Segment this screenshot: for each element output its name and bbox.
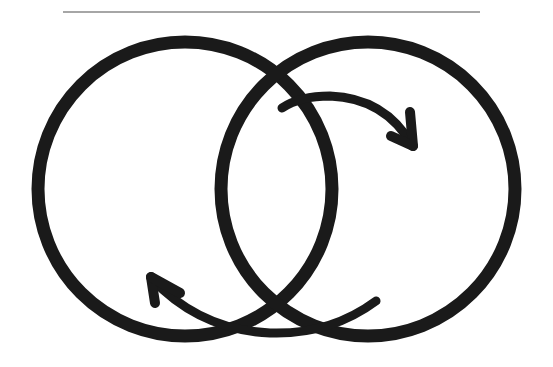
left-circle <box>38 42 332 336</box>
overlap-cycle-diagram: Two overlapping circles with curved arro… <box>0 0 553 367</box>
diagram-svg <box>0 0 553 367</box>
right-circle <box>221 42 515 336</box>
top-arrow-icon <box>282 96 413 146</box>
